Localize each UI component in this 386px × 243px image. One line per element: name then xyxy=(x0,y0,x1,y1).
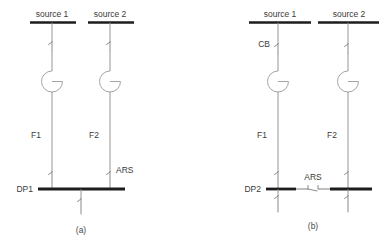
feeder-label-a2: F2 xyxy=(89,130,99,140)
switch-b-load2 xyxy=(345,196,349,212)
ars-label-b: ARS xyxy=(304,172,322,182)
switch-a2-top xyxy=(107,42,111,51)
feeder-label-a1: F1 xyxy=(31,130,41,140)
transformer-b1 xyxy=(268,71,289,92)
switch-a2-bus xyxy=(107,172,111,189)
panel-a: F1 F2 ARS DP1 (a) source 1 xyxy=(16,9,134,235)
source-label-a2: source 2 xyxy=(94,9,127,19)
bus-label-dp1: DP1 xyxy=(16,184,33,194)
transformer-b2 xyxy=(338,71,359,92)
transformer-a2 xyxy=(100,71,121,92)
single-line-diagram: F1 F2 ARS DP1 (a) source 1 xyxy=(0,0,386,243)
switch-b1-bus xyxy=(275,172,279,189)
diagram-canvas: F1 F2 ARS DP1 (a) source 1 xyxy=(0,0,386,243)
switch-a1-top xyxy=(49,42,53,51)
source-label-a1: source 1 xyxy=(36,9,69,19)
panel-b: CB F1 F2 DP2 xyxy=(244,9,379,231)
switch-a1-bus xyxy=(49,172,53,189)
feeder-label-b2: F2 xyxy=(327,130,337,140)
switch-a-load xyxy=(78,199,82,214)
panel-caption-a: (a) xyxy=(76,225,87,235)
ars-label-a: ARS xyxy=(116,165,134,175)
bus-label-dp2: DP2 xyxy=(244,184,261,194)
switch-b1-top xyxy=(275,44,279,53)
cb-label-b1: CB xyxy=(258,39,270,49)
switch-b-load1 xyxy=(275,196,279,212)
switch-b2-bus xyxy=(345,172,349,189)
transformer-a1 xyxy=(42,71,63,92)
tie-switch-ars xyxy=(308,186,318,192)
switch-b2-top xyxy=(345,44,349,53)
panel-caption-b: (b) xyxy=(308,221,319,231)
source-label-b1: source 1 xyxy=(264,9,297,19)
feeder-label-b1: F1 xyxy=(257,130,267,140)
source-label-b2: source 2 xyxy=(333,9,366,19)
